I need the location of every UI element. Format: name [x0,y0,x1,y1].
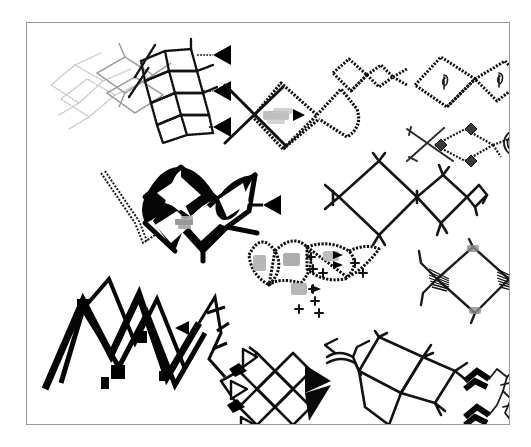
left-diamond [339,161,417,235]
label-blob [263,108,293,124]
skew-squares [359,331,467,425]
bond-fan [325,339,369,375]
lens-3 [307,244,354,280]
node-shadows [467,245,481,314]
diamond-ring [367,65,393,87]
bottom-node-tick [471,313,475,323]
right-arrowhead [263,195,281,215]
figure-bold-double-hook-with-thin-chain [463,361,510,425]
figure-diamond-grid-with-triangle-markers [213,345,337,425]
upper-right-bond [509,251,510,279]
figure-lens-chain-with-plus-signs [245,229,395,323]
figure-faint-lattice-with-arrow-stack [45,37,235,153]
lower-right-bond [509,279,510,305]
top-left-stub [373,153,385,161]
right-diamond [417,175,467,223]
floating-arrowhead [175,321,189,335]
figure-double-bond-fan-with-skew-squares [323,331,473,425]
figure-small-double-ring-pair [329,55,413,101]
figure-twin-diamond-chain-with-glyphs [413,53,510,113]
inner-arrowhead [293,109,305,121]
top-right-stub [439,165,449,175]
bottom-right-stub [437,223,447,235]
figure-plate-page [0,0,531,447]
left-diamond [415,57,475,107]
plate-border-frame [26,22,510,425]
forked-tail [393,69,407,85]
plate-canvas [27,23,509,424]
figure-bold-zigzag-mountain-range [39,273,237,401]
right-diamond [475,61,510,101]
tail-right [493,139,509,157]
nested-ring [504,131,510,155]
bold-hooks [465,371,489,425]
figure-hatched-node-diamond [411,235,510,329]
square-ring [333,59,367,91]
thin-chain [489,365,510,425]
left-fork [325,185,339,209]
